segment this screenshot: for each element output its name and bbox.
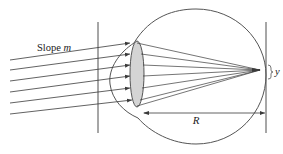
- lens: [130, 41, 144, 107]
- y-brace: [268, 65, 273, 79]
- y-label: y: [274, 66, 280, 77]
- R-label: R: [192, 114, 200, 126]
- eye-optics-diagram: Slope m R y: [0, 0, 283, 154]
- focus-point: [252, 68, 261, 72]
- eyeball-outline: [134, 9, 266, 144]
- converging-rays: [137, 43, 260, 106]
- incoming-rays: [10, 43, 132, 114]
- slope-label: Slope m: [37, 42, 72, 53]
- R-arrow-start: [143, 111, 149, 115]
